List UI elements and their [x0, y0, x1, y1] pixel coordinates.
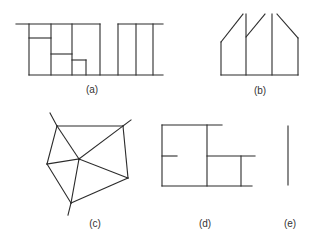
edge-line [68, 203, 71, 215]
figure-canvas [0, 0, 310, 237]
edge-line [277, 14, 298, 38]
panel-c-drawing [47, 113, 131, 215]
edge-line [79, 126, 123, 159]
edge-line [123, 126, 128, 178]
panel-a-drawing [16, 24, 163, 75]
edge-line [71, 159, 79, 203]
edge-line [57, 126, 79, 159]
panel-e-label: (e) [284, 218, 296, 229]
panel-b-label: (b) [254, 85, 266, 96]
panel-c-label: (c) [89, 218, 101, 229]
panel-d-drawing [162, 125, 255, 186]
edge-line [246, 14, 265, 37]
panel-d-label: (d) [199, 218, 211, 229]
edge-line [123, 120, 131, 126]
edge-line [221, 14, 243, 42]
edge-line [79, 159, 128, 178]
panel-b-drawing [221, 14, 298, 75]
edge-line [47, 159, 79, 164]
panel-a-label: (a) [86, 84, 98, 95]
center-vertex-dot [78, 158, 80, 160]
edge-line [47, 126, 57, 164]
edge-line [47, 164, 71, 203]
edge-line [71, 178, 128, 203]
edge-line [50, 113, 57, 126]
